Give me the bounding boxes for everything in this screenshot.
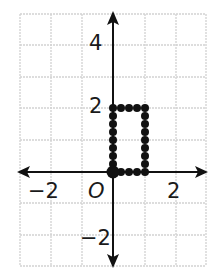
x-tick-label-2: 2 — [167, 181, 180, 202]
origin-point — [107, 166, 120, 179]
origin-label: O — [88, 181, 105, 202]
y-tick-label-2: 2 — [89, 96, 102, 117]
y-tick-label-4: 4 — [89, 33, 102, 54]
y-tick-label-neg2: −2 — [80, 228, 111, 249]
x-tick-label-neg2: −2 — [28, 181, 59, 202]
